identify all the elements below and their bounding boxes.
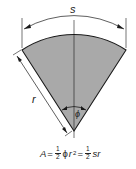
fraction-half: 12: [55, 146, 61, 160]
r-extension-top: [13, 50, 21, 55]
formula-eq2: =: [77, 148, 83, 159]
r-arrow-top-icon: [17, 56, 22, 62]
formula-r: r: [69, 148, 72, 159]
s-arrow-left-icon: [24, 24, 31, 29]
formula-phi: ϕ: [63, 148, 68, 159]
formula-sr: sr: [93, 148, 101, 159]
area-formula: A = 12 ϕr2 = 12 sr: [40, 146, 100, 160]
r-arrow-bottom-icon: [62, 127, 67, 133]
angle-label-phi: ϕ: [75, 110, 80, 119]
s-arrow-right-icon: [117, 24, 124, 29]
arc-label-s: s: [70, 4, 76, 15]
fraction-half-2: 12: [85, 146, 91, 160]
radius-label-r: r: [32, 94, 36, 105]
formula-lhs: A: [40, 148, 46, 159]
formula-eq: =: [47, 148, 53, 159]
formula-exp: 2: [73, 150, 76, 156]
sector-diagram: [0, 0, 136, 169]
